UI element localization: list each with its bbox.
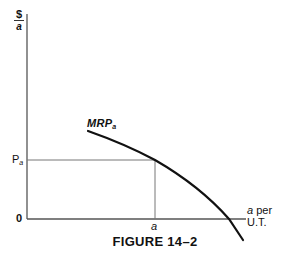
mrp-curve-label: MRPa	[87, 117, 117, 130]
y-axis-label-denominator: a	[13, 22, 25, 32]
origin-label: 0	[16, 212, 22, 224]
x-axis-label: a per U.T.	[247, 204, 272, 228]
mrp-curve	[88, 131, 243, 240]
curve-label-subscript: a	[112, 123, 116, 130]
x-axis-label-per: per	[253, 204, 272, 216]
quantity-label: a	[151, 220, 157, 232]
price-label: Pa	[12, 153, 23, 166]
figure-caption: FIGURE 14–2	[0, 234, 294, 249]
x-axis-label-unit: U.T.	[247, 216, 272, 228]
y-axis-label-numerator: $	[13, 9, 25, 19]
curve-label-base: MRP	[87, 117, 112, 129]
y-axis-label: $ a	[13, 9, 25, 32]
price-label-subscript: a	[19, 159, 23, 166]
